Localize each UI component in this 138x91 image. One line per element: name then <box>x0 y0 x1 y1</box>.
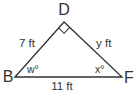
vertex-label-b: B <box>3 68 14 85</box>
side-label-bf: 11 ft <box>51 80 73 91</box>
right-angle-marker-d <box>59 28 70 34</box>
side-label-df: y ft <box>96 37 112 49</box>
angle-label-b: w° <box>26 63 39 75</box>
vertex-label-f: F <box>124 69 134 86</box>
triangle-diagram: D B F 7 ft y ft 11 ft w° x° <box>0 0 138 91</box>
angle-label-f: x° <box>95 63 104 75</box>
side-label-bd: 7 ft <box>19 37 36 49</box>
vertex-label-d: D <box>58 1 70 18</box>
